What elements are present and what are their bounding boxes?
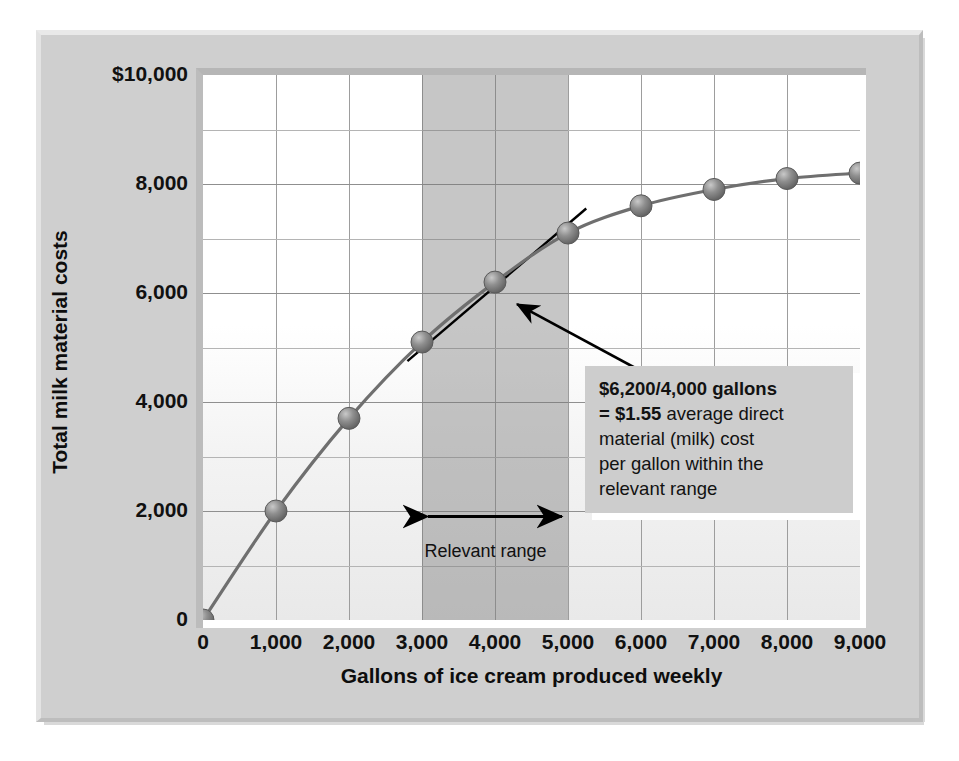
data-point-marker xyxy=(849,162,860,184)
data-point-marker xyxy=(265,500,287,522)
relevant-range-label: Relevant range xyxy=(403,541,568,562)
data-point-marker xyxy=(203,609,214,620)
x-axis-tick-label: 8,000 xyxy=(761,630,814,654)
x-axis-tick-label: 3,000 xyxy=(396,630,449,654)
callout-line-4: per gallon within the xyxy=(599,451,839,476)
callout-line-2-bold: = $1.55 xyxy=(599,403,661,424)
callout-line-1-bold: $6,200/4,000 gallons xyxy=(599,378,777,399)
x-axis-tick-label: 6,000 xyxy=(615,630,668,654)
callout-line-3: material (milk) cost xyxy=(599,426,839,451)
data-point-marker xyxy=(338,407,360,429)
average-cost-callout: $6,200/4,000 gallons = $1.55 average dir… xyxy=(585,366,853,513)
y-axis-tick-label: 2,000 xyxy=(135,498,188,522)
data-point-marker xyxy=(484,271,506,293)
x-axis-tick-label: 4,000 xyxy=(469,630,522,654)
data-point-marker xyxy=(411,331,433,353)
data-point-marker xyxy=(557,222,579,244)
x-axis-tick-labels: 01,0002,0003,0004,0005,0006,0007,0008,00… xyxy=(203,630,860,660)
y-axis-tick-label: 4,000 xyxy=(135,389,188,413)
y-axis-tick-label: 8,000 xyxy=(135,171,188,195)
plot-area xyxy=(203,75,860,620)
callout-line-1: $6,200/4,000 gallons xyxy=(599,376,839,401)
y-axis-tick-label: 0 xyxy=(176,607,188,631)
callout-line-2: = $1.55 average direct xyxy=(599,401,839,426)
data-point-marker xyxy=(776,168,798,190)
x-axis-tick-label: 7,000 xyxy=(688,630,741,654)
chart-data-overlay xyxy=(203,75,860,620)
x-axis-tick-label: 5,000 xyxy=(542,630,595,654)
callout-line-2-rest: average direct xyxy=(661,403,783,424)
x-axis-tick-label: 1,000 xyxy=(250,630,303,654)
data-point-marker xyxy=(703,178,725,200)
x-axis-tick-label: 2,000 xyxy=(323,630,376,654)
y-axis-tick-label: $10,000 xyxy=(112,62,188,86)
chart-figure: Total milk material costs $10,0008,0006,… xyxy=(0,0,959,761)
y-axis-tick-labels: $10,0008,0006,0004,0002,0000 xyxy=(60,75,188,620)
x-axis-tick-label: 0 xyxy=(197,630,209,654)
x-axis-tick-label: 9,000 xyxy=(834,630,887,654)
y-axis-tick-label: 6,000 xyxy=(135,280,188,304)
x-axis-title: Gallons of ice cream produced weekly xyxy=(203,664,860,688)
callout-line-5: relevant range xyxy=(599,476,839,501)
data-point-marker xyxy=(630,195,652,217)
